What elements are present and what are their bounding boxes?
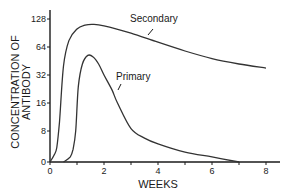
y-tick-label: 0 — [41, 157, 46, 167]
y-tick-label: 64 — [36, 42, 46, 52]
annotation-secondary: Secondary — [130, 13, 178, 24]
y-tick-label: 128 — [31, 14, 46, 24]
series-line-secondary — [50, 24, 266, 162]
x-tick-label: 8 — [263, 166, 268, 176]
series-line-primary — [64, 55, 240, 162]
x-axis-title: WEEKS — [138, 178, 178, 190]
labels-group: WEEKSCONCENTRATION OFANTIBODYSecondaryPr… — [9, 13, 178, 190]
y-tick-label: 16 — [36, 98, 46, 108]
x-tick-label: 2 — [101, 166, 106, 176]
annotation-secondary-arrow — [148, 29, 153, 35]
x-tick-label: 6 — [209, 166, 214, 176]
axes: 0816326412802468 — [31, 10, 280, 176]
annotation-primary-arrow — [118, 84, 121, 90]
antibody-chart: 0816326412802468 WEEKSCONCENTRATION OFAN… — [0, 0, 287, 194]
y-tick-label: 8 — [41, 126, 46, 136]
y-axis-title-line2: ANTIBODY — [20, 63, 32, 120]
annotation-primary: Primary — [116, 71, 150, 82]
series-group — [50, 24, 266, 162]
x-tick-label: 0 — [47, 166, 52, 176]
x-tick-label: 4 — [155, 166, 160, 176]
y-tick-label: 32 — [36, 70, 46, 80]
